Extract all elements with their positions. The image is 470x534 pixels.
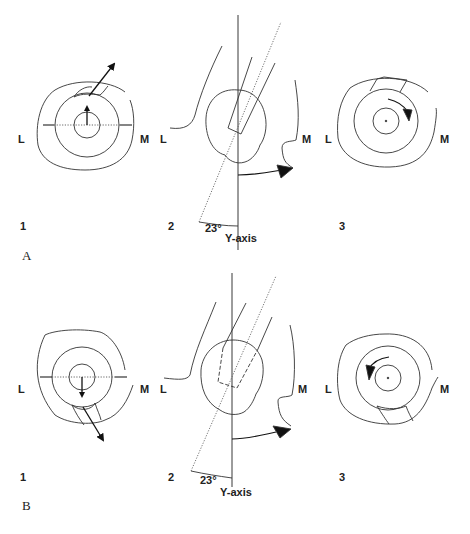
b2-angle-label: 23° <box>200 474 217 486</box>
a1-lateral-label: L <box>18 133 25 145</box>
view-b2-diagram <box>164 273 294 487</box>
a3-view-number: 3 <box>339 220 345 232</box>
view-a2-diagram <box>170 15 298 250</box>
b1-lateral-label: L <box>18 383 25 395</box>
b1-medial-label: M <box>140 383 149 395</box>
b2-medial-label: M <box>298 383 307 395</box>
a3-medial-label: M <box>440 133 449 145</box>
view-a3-diagram <box>338 77 437 167</box>
b3-medial-label: M <box>440 383 449 395</box>
b1-view-number: 1 <box>20 471 26 483</box>
a1-medial-label: M <box>140 133 149 145</box>
view-a1-diagram <box>37 64 134 170</box>
a2-medial-label: M <box>302 133 311 145</box>
a2-y-axis-label: Y-axis <box>225 232 257 244</box>
b3-view-number: 3 <box>339 471 345 483</box>
b2-y-axis-label: Y-axis <box>220 486 252 498</box>
a2-angle-label: 23° <box>205 222 222 234</box>
a1-view-number: 1 <box>20 220 26 232</box>
panel-label-a: A <box>22 248 31 264</box>
a2-view-number: 2 <box>168 220 174 232</box>
b2-view-number: 2 <box>168 471 174 483</box>
b3-lateral-label: L <box>325 383 332 395</box>
diagram-canvas <box>0 0 470 534</box>
a2-lateral-label: L <box>160 133 167 145</box>
panel-label-b: B <box>22 498 31 514</box>
view-b3-diagram <box>338 334 438 424</box>
b2-lateral-label: L <box>160 383 167 395</box>
view-b1-diagram <box>37 330 133 440</box>
a3-lateral-label: L <box>325 133 332 145</box>
